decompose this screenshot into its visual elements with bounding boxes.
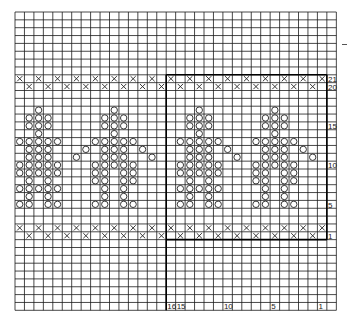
x-stitch-symbol [197,84,202,89]
o-stitch-symbol [102,185,108,191]
x-stitch-symbol [301,225,306,230]
x-stitch-symbol [291,233,296,238]
o-stitch-symbol [26,178,32,184]
x-stitch-symbol [244,225,249,230]
x-stitch-symbol [187,225,192,230]
o-stitch-symbol [177,138,183,144]
o-stitch-symbol [262,162,268,168]
o-stitch-symbol [215,185,221,191]
o-stitch-symbol [272,138,278,144]
o-stitch-symbol [196,154,202,160]
x-stitch-symbol [206,76,211,81]
o-stitch-symbol [281,178,287,184]
o-stitch-symbol [45,154,51,160]
x-stitch-symbol [149,225,154,230]
x-stitch-symbol [206,225,211,230]
o-stitch-symbol [45,138,51,144]
x-stitch-symbol [102,84,107,89]
o-stitch-symbol [17,162,23,168]
o-stitch-symbol [26,115,32,121]
column-number-label: 5 [271,302,276,311]
x-stitch-symbol [244,76,249,81]
o-stitch-symbol [309,154,315,160]
o-stitch-symbol [102,123,108,129]
o-stitch-symbol [196,162,202,168]
o-stitch-symbol [262,115,268,121]
o-stitch-symbol [130,162,136,168]
row-number-label: 15 [328,122,337,131]
o-stitch-symbol [253,201,259,207]
o-stitch-symbol [26,138,32,144]
x-stitch-symbol [225,76,230,81]
x-stitch-symbol [263,76,268,81]
o-stitch-symbol [45,170,51,176]
o-stitch-symbol [111,130,117,136]
o-stitch-symbol [206,123,212,129]
o-stitch-symbol [281,115,287,121]
o-stitch-symbol [120,178,126,184]
column-number-label: 15 [177,302,186,311]
x-stitch-symbol [291,84,296,89]
o-stitch-symbol [111,123,117,129]
x-stitch-symbol [149,76,154,81]
o-stitch-symbol [102,193,108,199]
o-stitch-symbol [17,138,23,144]
o-stitch-symbol [281,193,287,199]
o-stitch-symbol [26,170,32,176]
o-stitch-symbol [92,162,98,168]
o-stitch-symbol [26,146,32,152]
o-stitch-symbol [187,162,193,168]
x-stitch-symbol [282,225,287,230]
o-stitch-symbol [120,185,126,191]
o-stitch-symbol [215,138,221,144]
x-stitch-symbol [159,233,164,238]
o-stitch-symbol [92,138,98,144]
o-stitch-symbol [111,115,117,121]
o-stitch-symbol [262,146,268,152]
x-stitch-symbol [310,84,315,89]
o-stitch-symbol [35,146,41,152]
o-stitch-symbol [196,138,202,144]
o-stitch-symbol [196,185,202,191]
x-stitch-symbol [55,76,60,81]
x-stitch-symbol [253,233,258,238]
x-stitch-symbol [45,233,50,238]
o-stitch-symbol [102,146,108,152]
row-number-label: 1 [328,232,333,241]
x-stitch-symbol [74,225,79,230]
o-stitch-symbol [120,146,126,152]
o-stitch-symbol [272,130,278,136]
o-stitch-symbol [291,178,297,184]
o-stitch-symbol [120,138,126,144]
o-stitch-symbol [17,201,23,207]
x-stitch-symbol [178,233,183,238]
x-stitch-symbol [301,76,306,81]
o-stitch-symbol [120,123,126,129]
x-stitch-symbol [93,76,98,81]
o-stitch-symbol [272,162,278,168]
o-stitch-symbol [120,170,126,176]
o-stitch-symbol [102,115,108,121]
x-stitch-symbol [272,233,277,238]
x-stitch-symbol [140,233,145,238]
x-stitch-symbol [263,225,268,230]
x-stitch-symbol [112,225,117,230]
o-stitch-symbol [111,154,117,160]
x-stitch-symbol [83,233,88,238]
o-stitch-symbol [35,138,41,144]
o-stitch-symbol [206,138,212,144]
o-stitch-symbol [206,193,212,199]
o-stitch-symbol [45,162,51,168]
o-stitch-symbol [224,146,230,152]
x-stitch-symbol [310,233,315,238]
o-stitch-symbol [54,201,60,207]
o-stitch-symbol [281,162,287,168]
o-stitch-symbol [102,154,108,160]
o-stitch-symbol [102,162,108,168]
row-number-label: 20 [328,83,337,92]
o-stitch-symbol [206,154,212,160]
o-stitch-symbol [45,201,51,207]
o-stitch-symbol [45,115,51,121]
o-stitch-symbol [120,193,126,199]
o-stitch-symbol [196,170,202,176]
